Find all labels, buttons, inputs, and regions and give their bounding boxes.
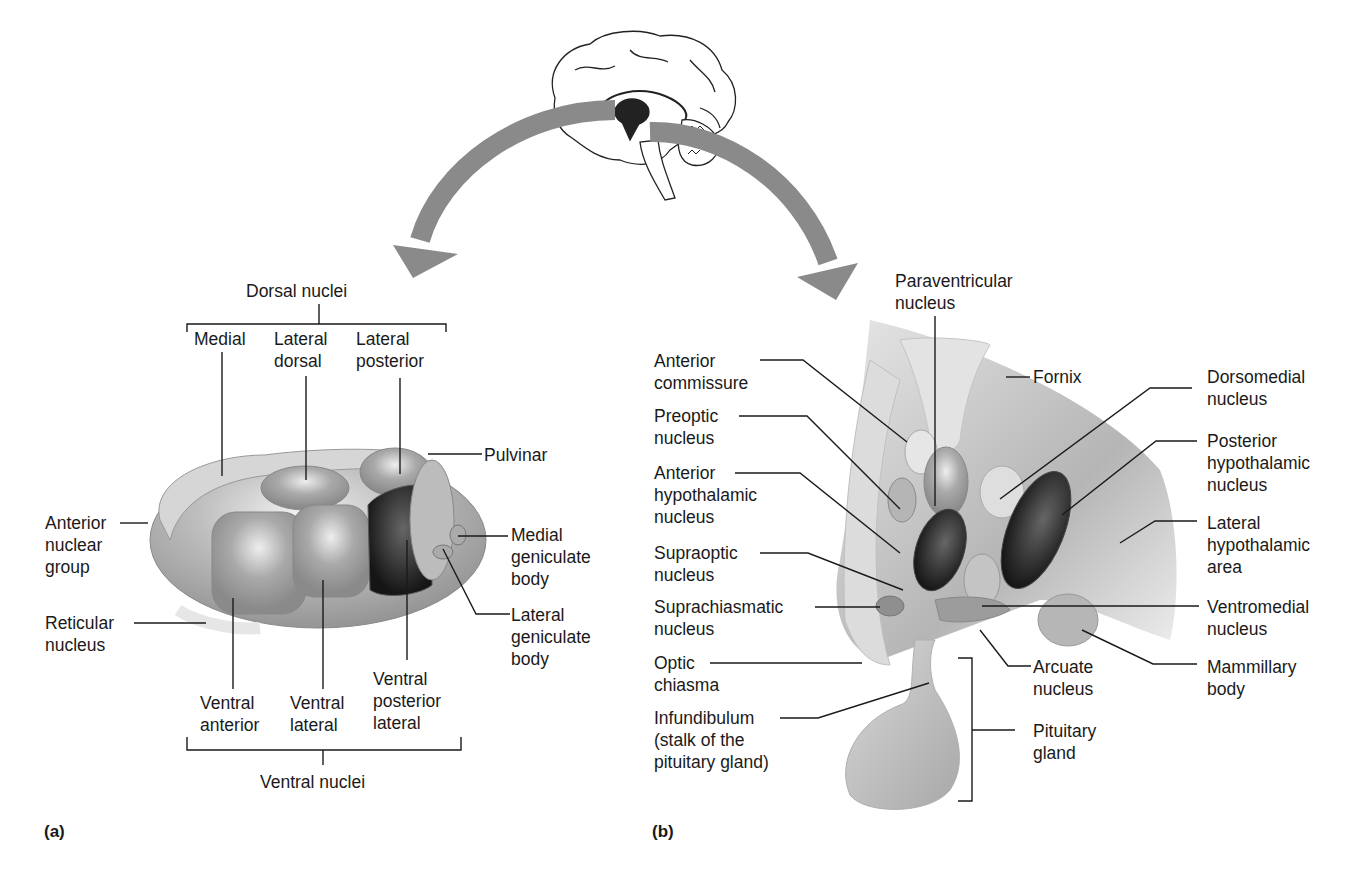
label-lateral-geniculate-body: Lateral geniculate body <box>511 604 591 670</box>
label-suprachiasmatic-nucleus: Suprachiasmatic nucleus <box>654 596 783 640</box>
group-label-ventral-nuclei: Ventral nuclei <box>260 771 365 793</box>
label-lateral-hypothalamic-area: Lateral hypothalamic area <box>1207 512 1310 578</box>
label-reticular-nucleus: Reticular nucleus <box>45 612 114 656</box>
group-label-dorsal-nuclei: Dorsal nuclei <box>246 280 347 302</box>
label-optic-chiasma: Optic chiasma <box>654 652 719 696</box>
label-supraoptic-nucleus: Supraoptic nucleus <box>654 542 738 586</box>
label-lateral-dorsal: Lateral dorsal <box>274 328 328 372</box>
label-dorsomedial-nucleus: Dorsomedial nucleus <box>1207 366 1305 410</box>
label-infundibulum: Infundibulum (stalk of the pituitary gla… <box>654 707 769 773</box>
label-ventral-lateral: Ventral lateral <box>290 692 344 736</box>
label-anterior-hypothalamic-nucleus: Anterior hypothalamic nucleus <box>654 462 757 528</box>
label-posterior-hypothalamic-nucleus: Posterior hypothalamic nucleus <box>1207 430 1310 496</box>
panel-tag-b: (b) <box>652 822 674 842</box>
label-pulvinar: Pulvinar <box>484 444 547 466</box>
label-preoptic-nucleus: Preoptic nucleus <box>654 405 718 449</box>
label-anterior-nuclear-group: Anterior nuclear group <box>45 512 106 578</box>
label-medial: Medial <box>194 328 246 350</box>
label-fornix: Fornix <box>1033 366 1082 388</box>
thalamus-illustration <box>150 448 486 628</box>
label-lateral-posterior: Lateral posterior <box>356 328 424 372</box>
label-ventral-anterior: Ventral anterior <box>200 692 259 736</box>
panel-tag-a: (a) <box>44 822 65 842</box>
label-arcuate-nucleus: Arcuate nucleus <box>1033 656 1093 700</box>
label-mammillary-body: Mammillary body <box>1207 656 1296 700</box>
label-paraventricular-nucleus: Paraventricular nucleus <box>895 270 1013 314</box>
label-anterior-commissure: Anterior commissure <box>654 350 748 394</box>
label-ventral-posterior-lateral: Ventral posterior lateral <box>373 668 441 734</box>
label-pituitary-gland: Pituitary gland <box>1033 720 1096 764</box>
hypothalamus-illustration <box>836 320 1176 809</box>
label-medial-geniculate-body: Medial geniculate body <box>511 524 591 590</box>
label-ventromedial-nucleus: Ventromedial nucleus <box>1207 596 1309 640</box>
